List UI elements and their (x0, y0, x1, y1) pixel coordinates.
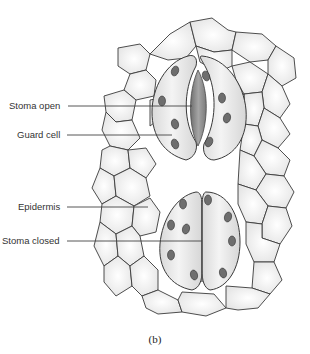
label-stoma-closed: Stoma closed (2, 235, 60, 246)
label-stoma-open: Stoma open (9, 100, 60, 111)
label-epidermis: Epidermis (18, 201, 60, 212)
epidermis-illustration (0, 0, 310, 354)
figure-caption: (b) (0, 333, 310, 345)
stoma-pore-open (191, 70, 207, 146)
label-guard-cell: Guard cell (17, 129, 60, 140)
stomata-diagram: Stoma open Guard cell Epidermis Stoma cl… (0, 0, 310, 354)
open-stoma (152, 55, 246, 160)
